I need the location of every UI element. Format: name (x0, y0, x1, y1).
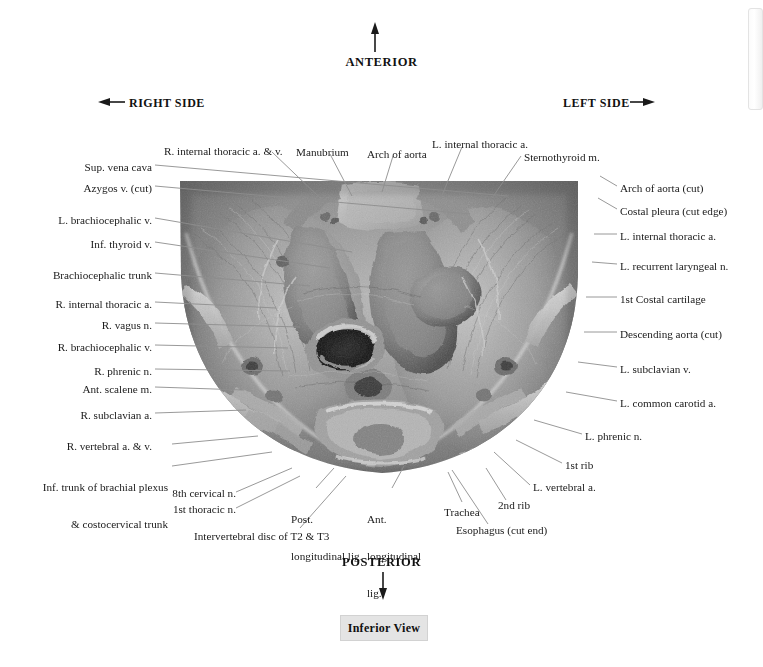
label-ant-longitudinal-lig-line3: lig. (367, 587, 421, 599)
document-page: ANTERIOR RIGHT SIDE LEFT SIDE (0, 0, 763, 667)
vertical-scrollbar-thumb[interactable] (748, 8, 763, 110)
label-arch-of-aorta: Arch of aorta (367, 148, 427, 160)
label-manubrium: Manubrium (296, 146, 349, 158)
label-descending-aorta-cut: Descending aorta (cut) (620, 328, 722, 340)
label-inf-trunk-brachial-plexus-line2: & costocervical trunk (43, 518, 168, 530)
label-inf-trunk-brachial-plexus-line1: Inf. trunk of brachial plexus (43, 481, 168, 493)
vertical-scrollbar-track[interactable] (746, 0, 763, 667)
label-r-internal-thoracic-a: R. internal thoracic a. (55, 298, 152, 310)
label-l-phrenic-n: L. phrenic n. (585, 430, 642, 442)
label-l-vertebral-a: L. vertebral a. (533, 481, 596, 493)
label-brachiocephalic-trunk: Brachiocephalic trunk (53, 269, 152, 281)
label-l-common-carotid-a: L. common carotid a. (620, 397, 716, 409)
label-2nd-rib: 2nd rib (498, 499, 530, 511)
label-post-longitudinal-lig: Post. longitudinal lig. (291, 488, 362, 587)
label-l-recurrent-laryngeal-n: L. recurrent laryngeal n. (620, 260, 728, 272)
posterior-label: POSTERIOR (0, 555, 763, 570)
label-1st-rib: 1st rib (565, 459, 593, 471)
label-inf-thyroid-v: Inf. thyroid v. (91, 238, 152, 250)
label-azygos-v-cut: Azygos v. (cut) (83, 182, 152, 194)
label-trachea: Trachea (444, 506, 480, 518)
label-post-longitudinal-lig-line1: Post. (291, 513, 362, 525)
label-r-subclavian-a: R. subclavian a. (81, 409, 152, 421)
label-1st-costal-cartilage: 1st Costal cartilage (620, 293, 706, 305)
label-l-brachiocephalic-v: L. brachiocephalic v. (58, 214, 152, 226)
label-sternothyroid-m: Sternothyroid m. (524, 151, 600, 163)
anatomical-specimen-photo (178, 181, 580, 481)
label-r-phrenic-n: R. phrenic n. (94, 365, 152, 377)
label-ant-longitudinal-lig-line1: Ant. (367, 513, 421, 525)
label-sup-vena-cava: Sup. vena cava (85, 161, 152, 173)
label-l-internal-thoracic-a-right: L. internal thoracic a. (620, 230, 716, 242)
label-esophagus-cut-end: Esophagus (cut end) (456, 524, 547, 536)
label-r-vertebral-a-v: R. vertebral a. & v. (67, 440, 152, 452)
label-ant-scalene-m: Ant. scalene m. (82, 383, 152, 395)
label-r-brachiocephalic-v: R. brachiocephalic v. (58, 341, 152, 353)
label-l-internal-thoracic-a: L. internal thoracic a. (432, 138, 528, 150)
inferior-view-caption: Inferior View (340, 615, 428, 641)
label-arch-of-aorta-cut: Arch of aorta (cut) (620, 182, 704, 194)
label-r-vagus-n: R. vagus n. (102, 319, 152, 331)
left-side-label: LEFT SIDE (563, 96, 630, 111)
label-l-subclavian-v: L. subclavian v. (620, 363, 691, 375)
label-inf-trunk-brachial-plexus: Inf. trunk of brachial plexus & costocer… (43, 456, 168, 555)
anterior-label: ANTERIOR (0, 55, 763, 70)
label-1st-thoracic-n: 1st thoracic n. (173, 503, 236, 515)
label-8th-cervical-n: 8th cervical n. (172, 487, 236, 499)
label-r-internal-thoracic-a-v: R. internal thoracic a. & v. (164, 145, 283, 157)
right-side-label: RIGHT SIDE (129, 96, 205, 111)
label-costal-pleura-cut-edge: Costal pleura (cut edge) (620, 205, 727, 217)
